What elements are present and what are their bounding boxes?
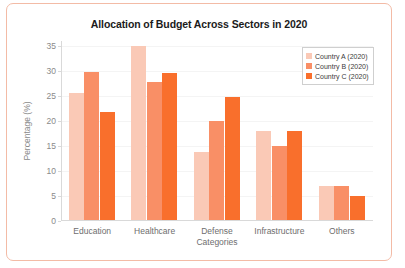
x-tick-label: Education (73, 226, 111, 236)
y-tick-label: 5 (51, 191, 56, 201)
bar (100, 112, 115, 222)
chart-title: Allocation of Budget Across Sectors in 2… (7, 18, 391, 30)
bar (147, 82, 162, 222)
y-tick-label: 15 (47, 141, 56, 151)
bar (209, 121, 224, 221)
bar (256, 131, 271, 221)
bar (319, 186, 334, 221)
y-axis-label: Percentage (%) (21, 41, 33, 221)
y-axis-label-text: Percentage (%) (22, 101, 32, 160)
bar (162, 73, 177, 222)
legend-item-label: Country B (2020) (315, 63, 368, 70)
legend-swatch-icon (306, 63, 312, 69)
legend-item[interactable]: Country B (2020) (306, 61, 369, 71)
legend-swatch-icon (306, 73, 312, 79)
legend-item[interactable]: Country C (2020) (306, 71, 369, 81)
bar (225, 97, 240, 222)
x-axis-line (61, 220, 373, 221)
chart-legend: Country A (2020)Country B (2020)Country … (302, 47, 374, 85)
bar (350, 196, 365, 221)
bar (131, 46, 146, 221)
legend-item[interactable]: Country A (2020) (306, 51, 369, 61)
bar-group (131, 41, 178, 221)
bar-group (194, 41, 241, 221)
y-tick-label: 10 (47, 166, 56, 176)
x-tick-label: Defense (201, 226, 233, 236)
y-axis-line (61, 41, 62, 221)
legend-item-label: Country C (2020) (315, 73, 369, 80)
bar-group (69, 41, 116, 221)
legend-swatch-icon (306, 53, 312, 59)
bar (194, 152, 209, 222)
y-tick-mark (58, 221, 61, 222)
figure-frame: Allocation of Budget Across Sectors in 2… (6, 3, 392, 261)
y-tick-label: 30 (47, 66, 56, 76)
bar-group (256, 41, 303, 221)
x-tick-label: Others (329, 226, 355, 236)
y-tick-label: 25 (47, 91, 56, 101)
y-tick-label: 35 (47, 41, 56, 51)
bar (334, 186, 349, 221)
bar (272, 146, 287, 221)
bar (287, 131, 302, 221)
x-tick-label: Infrastructure (254, 226, 304, 236)
x-tick-label: Healthcare (134, 226, 175, 236)
x-axis-label: Categories (61, 237, 373, 247)
y-tick-label: 0 (51, 216, 56, 226)
legend-item-label: Country A (2020) (315, 53, 368, 60)
y-tick-label: 20 (47, 116, 56, 126)
bar (69, 93, 84, 222)
bar (84, 72, 99, 221)
